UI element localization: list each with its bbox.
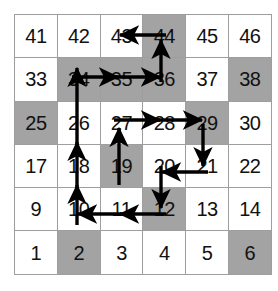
table-row: 9 10 11 12 13 14 — [15, 188, 272, 231]
diagram-canvas: 41 42 43 44 45 46 33 34 35 36 37 38 25 — [0, 0, 278, 291]
grid-cell[interactable]: 26 — [57, 101, 100, 144]
grid-cell[interactable]: 12 — [143, 188, 186, 231]
grid-cell[interactable]: 44 — [143, 15, 186, 58]
grid-cell[interactable]: 3 — [100, 231, 143, 274]
grid-cell[interactable]: 14 — [228, 188, 271, 231]
grid-cell[interactable]: 34 — [57, 58, 100, 101]
grid-cell[interactable]: 38 — [228, 58, 271, 101]
grid-cell[interactable]: 22 — [228, 144, 271, 187]
grid-cell[interactable]: 6 — [228, 231, 271, 274]
grid-cell[interactable]: 17 — [15, 144, 58, 187]
grid-cell[interactable]: 42 — [57, 15, 100, 58]
grid-cell[interactable]: 1 — [15, 231, 58, 274]
grid-cell[interactable]: 25 — [15, 101, 58, 144]
grid-cell[interactable]: 45 — [186, 15, 229, 58]
grid-body: 41 42 43 44 45 46 33 34 35 36 37 38 25 — [15, 15, 272, 275]
grid-cell[interactable]: 10 — [57, 188, 100, 231]
table-row: 41 42 43 44 45 46 — [15, 15, 272, 58]
grid-cell[interactable]: 37 — [186, 58, 229, 101]
grid-cell[interactable]: 4 — [143, 231, 186, 274]
grid-cell[interactable]: 9 — [15, 188, 58, 231]
grid-cell[interactable]: 29 — [186, 101, 229, 144]
grid-cell[interactable]: 28 — [143, 101, 186, 144]
grid-cell[interactable]: 43 — [100, 15, 143, 58]
grid-cell[interactable]: 18 — [57, 144, 100, 187]
grid-cell[interactable]: 33 — [15, 58, 58, 101]
number-grid: 41 42 43 44 45 46 33 34 35 36 37 38 25 — [14, 14, 265, 268]
grid-cell[interactable]: 5 — [186, 231, 229, 274]
grid-cell[interactable]: 35 — [100, 58, 143, 101]
table-row: 17 18 19 20 21 22 — [15, 144, 272, 187]
grid-cell[interactable]: 19 — [100, 144, 143, 187]
grid-cell[interactable]: 13 — [186, 188, 229, 231]
grid-cell[interactable]: 27 — [100, 101, 143, 144]
grid-cell[interactable]: 20 — [143, 144, 186, 187]
table-row: 1 2 3 4 5 6 — [15, 231, 272, 274]
grid-cell[interactable]: 36 — [143, 58, 186, 101]
grid-table: 41 42 43 44 45 46 33 34 35 36 37 38 25 — [14, 14, 272, 275]
grid-cell[interactable]: 21 — [186, 144, 229, 187]
grid-cell[interactable]: 11 — [100, 188, 143, 231]
grid-cell[interactable]: 41 — [15, 15, 58, 58]
grid-cell[interactable]: 30 — [228, 101, 271, 144]
table-row: 33 34 35 36 37 38 — [15, 58, 272, 101]
grid-cell[interactable]: 46 — [228, 15, 271, 58]
grid-cell[interactable]: 2 — [57, 231, 100, 274]
table-row: 25 26 27 28 29 30 — [15, 101, 272, 144]
